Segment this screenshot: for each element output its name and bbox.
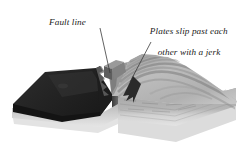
diagram-canvas: Fault line Plates slip past each other w… bbox=[0, 0, 241, 152]
plates-slip-label-line1: Plates slip past each bbox=[150, 26, 228, 36]
left-block-group bbox=[12, 66, 118, 133]
plates-slip-label-line2: other with a jerk bbox=[131, 47, 237, 57]
left-slab-speck bbox=[58, 84, 68, 89]
plates-slip-label: Plates slip past each other with a jerk bbox=[131, 16, 237, 78]
fault-line-label: Fault line bbox=[49, 17, 86, 27]
